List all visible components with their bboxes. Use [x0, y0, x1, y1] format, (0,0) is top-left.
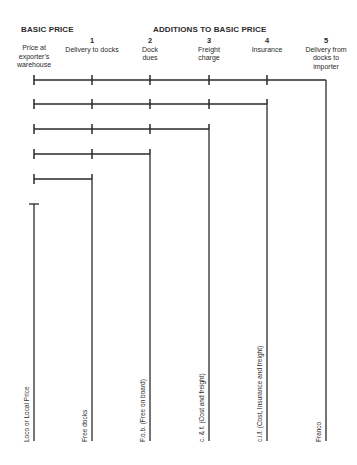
term-label-loco: Loco or Local Price: [23, 386, 30, 442]
term-label-fob: F.o.b. (Free on board): [139, 379, 146, 442]
term-label-franco: Franco: [315, 422, 322, 442]
term-label-cf: c. & f. (Cost and freight): [198, 373, 205, 442]
term-label-cif: c.i.f. (Cost, Insurance and freight): [256, 346, 263, 442]
price-diagram-lines: [0, 0, 357, 465]
term-label-free-docks: Free docks: [81, 410, 88, 442]
